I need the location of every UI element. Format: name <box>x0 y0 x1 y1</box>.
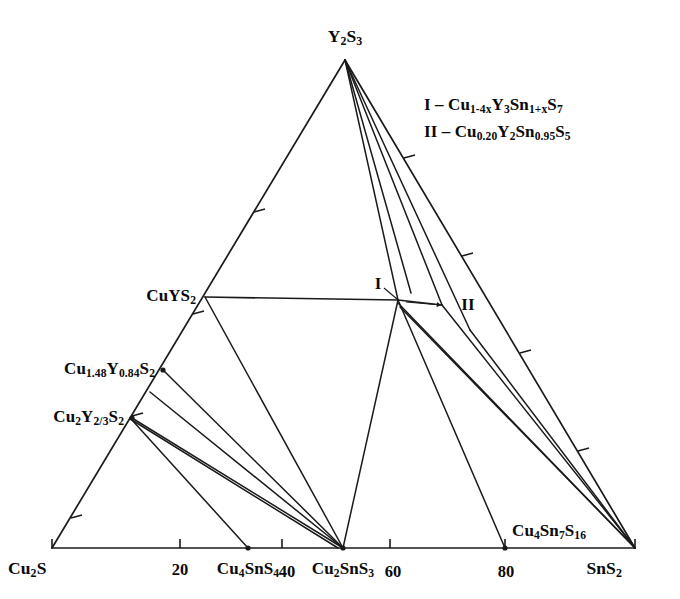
axis-tick-label-80: 80 <box>498 564 515 581</box>
tie-line-edge-left <box>52 60 345 548</box>
corner-label-cu2s: Cu2S <box>8 560 46 580</box>
legend-line-compound-i: I – Cu1-4xY3Sn1+xS7 <box>424 96 563 115</box>
tie-line-inner-to-sns2 <box>470 330 635 548</box>
legend-line-compound-ii: II – Cu0.20Y2Sn0.95S5 <box>424 123 571 142</box>
axis-tick-label-20: 20 <box>172 562 189 579</box>
tie-line-i-to-cu2sns3 <box>343 300 398 548</box>
ternary-phase-diagram-figure: Cu2SY2S3SnS2 20406080 CuYS2Cu1.48Y0.84S2… <box>0 0 680 599</box>
phase-label-cu2sns3: Cu2SnS3 <box>312 560 374 579</box>
tie-line-ii-to-sns2 <box>442 305 635 548</box>
phase-point-dot-cu148 <box>160 367 165 372</box>
phase-label-cu2y23: Cu2Y2/3S2 <box>53 408 124 427</box>
phase-label-cu148: Cu1.48Y0.84S2 <box>64 360 155 379</box>
axis-tick-label-40: 40 <box>279 564 296 581</box>
roman-marker-label-marker-i: I <box>375 275 382 292</box>
phase-label-cu4sns4: Cu4SnS4 <box>217 560 279 579</box>
corner-label-y2s3: Y2S3 <box>328 28 363 48</box>
tie-line-cuys2-to-cu2sns3 <box>205 297 343 548</box>
edge-tick-right-0 <box>404 155 415 158</box>
marker-leader-lines <box>384 288 441 307</box>
tie-line-cuys2-horizontal <box>205 297 398 300</box>
phase-point-dot-cu2sns3 <box>340 545 345 550</box>
tie-line-cu148-to-cu2sns3 <box>163 370 343 548</box>
axis-tick-label-60: 60 <box>385 564 402 581</box>
tie-line-apex-to-i2 <box>345 60 411 293</box>
tie-line-cu2y23-to-cu4sns4 <box>132 420 248 548</box>
phase-label-cu4sn7s16: Cu4Sn7S16 <box>512 522 586 541</box>
diagram-canvas <box>0 0 680 599</box>
edge-tick-right-2 <box>520 350 531 353</box>
tie-line-cu2y23-a <box>132 418 343 548</box>
phase-point-dot-cu4sns4 <box>245 545 250 550</box>
tie-line-cu148b-to-cu2sns3 <box>150 392 343 548</box>
edge-tick-right-3 <box>578 448 589 451</box>
phase-point-dot-cu2y23 <box>129 415 134 420</box>
edge-tick-left-3 <box>71 515 82 518</box>
tie-line-apex-to-i <box>345 60 398 300</box>
phase-label-cuys2: CuYS2 <box>146 287 196 306</box>
edge-tick-right-1 <box>462 253 473 256</box>
phase-point-dot-cu4sn7s16 <box>502 545 507 550</box>
roman-marker-label-marker-ii: II <box>461 296 474 313</box>
axis-ticks-group <box>52 155 635 548</box>
tie-line-i-to-sns2b <box>400 307 635 548</box>
corner-label-sns2: SnS2 <box>586 560 622 580</box>
tie-line-i-to-cu4sn7 <box>398 300 505 548</box>
